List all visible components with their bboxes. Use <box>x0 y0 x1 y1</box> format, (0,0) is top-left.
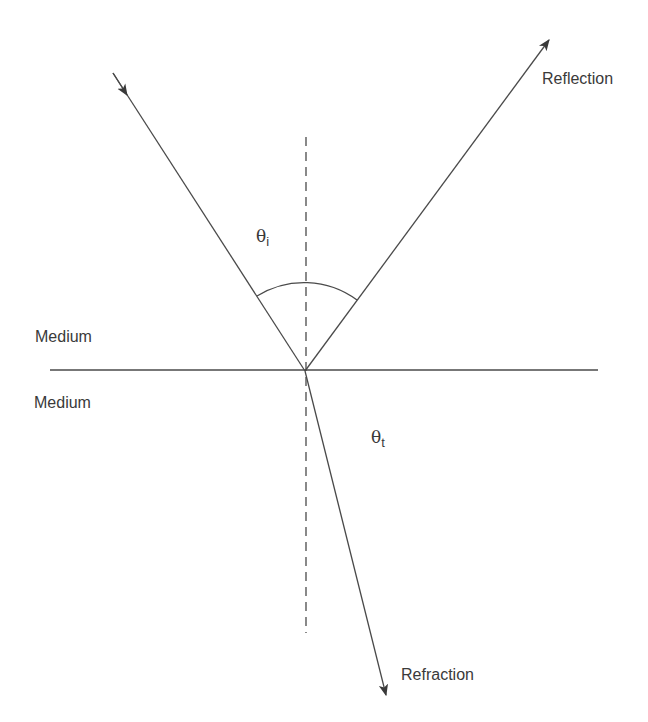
incident-arrow-icon <box>113 73 127 95</box>
theta-transmitted-label: θt <box>371 427 385 450</box>
medium-bottom-label: Medium <box>34 394 91 412</box>
theta-symbol: θ <box>256 226 266 246</box>
medium-top-label: Medium <box>35 328 92 346</box>
reflection-label: Reflection <box>542 70 613 88</box>
theta-incident-label: θi <box>256 226 269 249</box>
incident-ray <box>113 73 305 371</box>
refracted-ray <box>305 371 386 695</box>
theta-symbol: θ <box>371 427 381 447</box>
incident-angle-arc <box>257 283 357 300</box>
theta-incident-subscript: i <box>266 234 269 249</box>
reflected-ray <box>305 40 549 371</box>
optics-diagram <box>0 0 648 722</box>
refraction-label: Refraction <box>401 666 474 684</box>
theta-transmitted-subscript: t <box>381 435 385 450</box>
